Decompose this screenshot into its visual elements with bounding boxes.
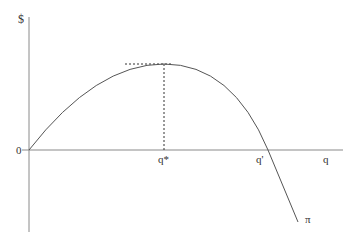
profit-curve	[29, 64, 298, 222]
q-star-label: q*	[158, 153, 169, 165]
q-prime-label: q'	[256, 153, 264, 165]
profit-chart: $ 0 q* q' q π	[0, 0, 359, 247]
curve-label: π	[305, 213, 311, 225]
x-axis-label: q	[323, 153, 329, 165]
y-axis-label: $	[18, 12, 24, 26]
origin-label: 0	[16, 144, 22, 156]
chart-svg: $ 0 q* q' q π	[0, 0, 359, 247]
